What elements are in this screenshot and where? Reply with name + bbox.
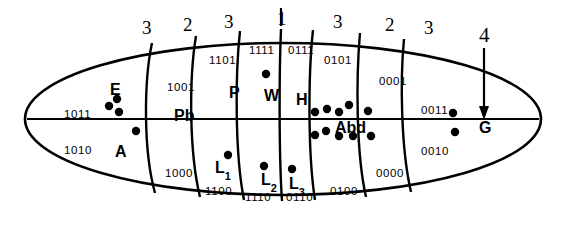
binary-code-S2-below: 0000 (376, 168, 404, 180)
binary-code-S2-above: 0001 (379, 76, 407, 88)
binary-code-Abd-above: 0101 (324, 55, 352, 67)
segment-label-Abd: Abd (335, 120, 366, 136)
leg-label-base: L (289, 175, 299, 192)
clone-dot (224, 151, 232, 159)
top-number-t3: 3 (224, 12, 234, 31)
binary-code-Pb-above: 1001 (167, 82, 195, 94)
binary-code-G-above: 0011 (421, 105, 448, 117)
binary-code-P-above: 1101 (209, 55, 236, 67)
top-number-t5: 3 (333, 12, 343, 31)
binary-code-Abd-below: 0100 (330, 186, 358, 198)
clone-dot (451, 128, 459, 136)
binary-code-P-below: 1100 (205, 186, 232, 198)
segment-label-L3: L3 (289, 176, 305, 195)
clone-dot (115, 108, 123, 116)
segment-label-E: E (110, 82, 121, 98)
segment-label-L2: L2 (261, 172, 277, 191)
top-number-t2: 2 (183, 15, 193, 34)
binary-code-E-above: 1011 (64, 109, 91, 121)
binary-code-G-below: 0010 (421, 146, 449, 158)
segment-label-Pb: Pb (174, 108, 194, 124)
segment-label-A: A (115, 144, 127, 160)
binary-code-E-below: 1010 (64, 145, 92, 157)
segment-label-G: G (479, 120, 491, 136)
segment-label-W: W (264, 88, 279, 104)
segment-label-P: P (229, 85, 240, 101)
boundary-3 (237, 31, 244, 200)
clone-dot (345, 101, 353, 109)
leg-label-subscript: 2 (271, 182, 277, 194)
boundary-4 (280, 29, 282, 201)
top-number-t7: 3 (424, 18, 434, 37)
binary-code-W-below: 1110 (245, 192, 271, 204)
binary-code-H-above: 0111 (288, 45, 314, 57)
clone-dot (260, 162, 268, 170)
leg-label-base: L (261, 171, 271, 188)
leg-label-subscript: 1 (225, 170, 231, 182)
clone-dot (311, 131, 319, 139)
arrow-4 (479, 48, 489, 120)
figure-canvas: 3231323 4 101110101001100011011100111111… (0, 0, 565, 233)
segment-label-L1: L1 (215, 160, 231, 179)
clone-dot (262, 70, 270, 78)
clone-dot (364, 107, 372, 115)
leg-label-base: L (215, 159, 225, 176)
clone-dot (449, 109, 457, 117)
top-number-t1: 3 (142, 18, 152, 37)
clone-dot (322, 127, 330, 135)
boundary-6 (358, 33, 366, 197)
top-number-t6: 2 (385, 15, 395, 34)
binary-code-Pb-below: 1000 (165, 168, 193, 180)
right-number-4: 4 (479, 25, 490, 46)
segment-label-H: H (296, 92, 308, 108)
clone-dot (367, 132, 375, 140)
clone-dot (335, 108, 343, 116)
clone-dot (323, 105, 331, 113)
binary-code-W-above: 1111 (249, 45, 274, 57)
clone-dot (105, 102, 113, 110)
top-number-t4: 1 (277, 9, 287, 28)
clone-dot (288, 165, 296, 173)
clone-dot (132, 127, 140, 135)
clone-dot (311, 108, 319, 116)
leg-label-subscript: 3 (299, 186, 305, 198)
